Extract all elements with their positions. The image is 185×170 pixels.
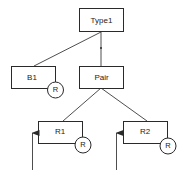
node-type1-label: Type1 — [91, 16, 113, 25]
node-r2: R2 R — [124, 122, 177, 155]
edge-dot-marker — [100, 47, 102, 49]
node-b1-label: B1 — [27, 73, 37, 82]
node-r1-badge-label: R — [80, 140, 86, 149]
node-b1: B1 R — [12, 67, 64, 99]
node-pair: Pair — [80, 67, 124, 89]
node-r2-badge-label: R — [165, 141, 171, 150]
edge-type1-b1 — [34, 32, 101, 66]
edge-pair-r1 — [63, 88, 101, 121]
node-pair-label: Pair — [94, 73, 109, 82]
tree-diagram: Type1 B1 R Pair R1 R R2 R — [0, 0, 185, 170]
edge-pair-r2 — [101, 88, 147, 121]
node-r1-label: R1 — [55, 127, 66, 136]
node-r1: R1 R — [39, 122, 92, 154]
node-type1: Type1 — [80, 9, 124, 32]
node-r2-label: R2 — [140, 127, 151, 136]
node-b1-badge-label: R — [53, 85, 59, 94]
